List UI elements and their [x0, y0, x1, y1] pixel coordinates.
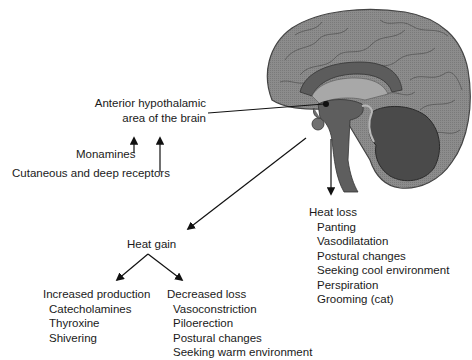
hypothalamus-label-line2: area of the brain	[86, 111, 206, 126]
increased-production-item: Thyroxine	[43, 316, 150, 331]
heat-loss-item: Seeking cool environment	[309, 263, 449, 278]
decreased-loss-block: Decreased loss Vasoconstriction Piloerec…	[167, 287, 312, 360]
heat-gain-heading: Heat gain	[127, 237, 176, 252]
decreased-loss-item: Vasoconstriction	[167, 302, 312, 317]
heat-loss-item: Perspiration	[309, 278, 449, 293]
increased-production-block: Increased production Catecholamines Thyr…	[43, 287, 150, 345]
heat-loss-block: Heat loss Panting Vasodilatation Postura…	[309, 205, 449, 307]
increased-production-item: Shivering	[43, 331, 150, 346]
heat-loss-item: Vasodilatation	[309, 234, 449, 249]
heat-loss-heading: Heat loss	[309, 205, 449, 220]
heat-loss-item: Postural changes	[309, 249, 449, 264]
increased-production-item: Catecholamines	[43, 302, 150, 317]
hypothalamus-label: Anterior hypothalamic area of the brain	[86, 96, 206, 125]
decreased-loss-arrow	[148, 254, 182, 280]
brain-illustration	[267, 9, 470, 192]
heat-gain-arrow	[188, 138, 306, 229]
increased-production-heading: Increased production	[43, 287, 150, 302]
brainstem	[318, 100, 363, 193]
heat-loss-item: Panting	[309, 220, 449, 235]
decreased-loss-item: Postural changes	[167, 331, 312, 346]
decreased-loss-item: Seeking warm environment	[167, 345, 312, 360]
pituitary	[312, 118, 324, 130]
monamines-label: Monamines	[76, 147, 135, 162]
decreased-loss-item: Piloerection	[167, 316, 312, 331]
receptors-label: Cutaneous and deep receptors	[12, 166, 170, 181]
increased-production-arrow	[117, 254, 148, 280]
heat-loss-item: Grooming (cat)	[309, 292, 449, 307]
hypothalamus-label-line1: Anterior hypothalamic	[86, 96, 206, 111]
decreased-loss-heading: Decreased loss	[167, 287, 312, 302]
